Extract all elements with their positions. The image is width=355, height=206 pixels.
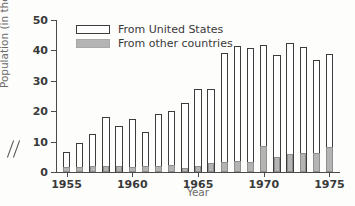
x-tick-1970 bbox=[264, 172, 265, 177]
y-tick-40 bbox=[51, 50, 56, 51]
bar-other-countries-1974 bbox=[313, 153, 320, 172]
bar-other-countries-1962 bbox=[155, 166, 162, 172]
bar-united-states-1967 bbox=[221, 53, 228, 172]
bar-other-countries-1973 bbox=[300, 153, 307, 172]
bar-other-countries-1964 bbox=[182, 168, 189, 172]
chart-figure: Population (in thousands) 01020304050 19… bbox=[0, 0, 355, 206]
y-tick-label-50: 50 bbox=[33, 14, 48, 27]
y-tick-10 bbox=[51, 142, 56, 143]
bar-other-countries-1966 bbox=[208, 163, 215, 172]
bar-other-countries-1975 bbox=[326, 147, 333, 172]
bar-other-countries-1961 bbox=[142, 166, 149, 172]
legend-label-united-states: From United States bbox=[118, 23, 223, 36]
chart-legend: From United States From other countries bbox=[76, 22, 236, 50]
y-axis-line bbox=[56, 20, 57, 172]
x-tick-1955 bbox=[67, 172, 68, 177]
y-tick-label-10: 10 bbox=[33, 135, 48, 148]
legend-label-other-countries: From other countries bbox=[118, 37, 233, 50]
bar-united-states-1972 bbox=[286, 43, 293, 172]
bar-other-countries-1958 bbox=[103, 166, 110, 172]
bar-other-countries-1970 bbox=[260, 146, 267, 172]
bar-united-states-1966 bbox=[207, 89, 214, 172]
bar-united-states-1963 bbox=[168, 111, 175, 172]
bar-united-states-1965 bbox=[194, 89, 201, 172]
y-tick-50 bbox=[51, 20, 56, 21]
bar-united-states-1969 bbox=[247, 48, 254, 172]
x-tick-1965 bbox=[198, 172, 199, 177]
bar-other-countries-1959 bbox=[116, 166, 123, 172]
y-axis-title: Population (in thousands) bbox=[0, 0, 10, 96]
legend-swatch-united-states-icon bbox=[76, 25, 110, 34]
bar-united-states-1964 bbox=[181, 103, 188, 172]
bar-other-countries-1969 bbox=[247, 162, 254, 172]
x-axis-title: Year bbox=[56, 186, 340, 198]
bar-united-states-1958 bbox=[102, 117, 109, 172]
bar-other-countries-1972 bbox=[287, 154, 294, 172]
bar-united-states-1962 bbox=[155, 114, 162, 172]
y-tick-label-40: 40 bbox=[33, 44, 48, 57]
bar-other-countries-1968 bbox=[234, 161, 241, 172]
y-tick-label-20: 20 bbox=[33, 105, 48, 118]
x-tick-1960 bbox=[132, 172, 133, 177]
legend-swatch-other-countries-icon bbox=[76, 39, 110, 48]
bar-united-states-1960 bbox=[129, 119, 136, 172]
bar-united-states-1968 bbox=[234, 46, 241, 172]
bar-other-countries-1965 bbox=[195, 166, 202, 172]
legend-item-other: From other countries bbox=[76, 36, 236, 50]
y-tick-30 bbox=[51, 81, 56, 82]
bar-other-countries-1971 bbox=[274, 157, 281, 173]
bar-other-countries-1955 bbox=[63, 167, 70, 172]
y-tick-20 bbox=[51, 111, 56, 112]
axis-break-marks bbox=[6, 140, 26, 158]
y-tick-label-30: 30 bbox=[33, 74, 48, 87]
x-tick-1975 bbox=[329, 172, 330, 177]
bar-other-countries-1956 bbox=[76, 167, 83, 172]
legend-item-us: From United States bbox=[76, 22, 236, 36]
bar-other-countries-1960 bbox=[129, 167, 136, 172]
bar-united-states-1971 bbox=[273, 55, 280, 172]
bar-other-countries-1957 bbox=[90, 166, 97, 172]
y-tick-label-0: 0 bbox=[40, 166, 48, 179]
bar-other-countries-1963 bbox=[168, 165, 175, 172]
y-tick-0 bbox=[51, 172, 56, 173]
bar-other-countries-1967 bbox=[221, 162, 228, 172]
